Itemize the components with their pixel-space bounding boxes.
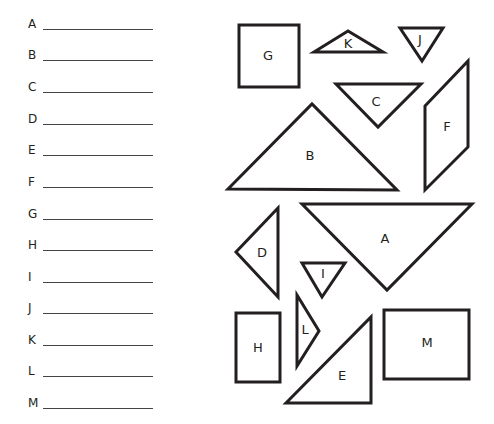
shape-label-k: K (344, 37, 353, 51)
shape-label-e: E (338, 369, 346, 383)
shape-label-f: F (443, 120, 450, 134)
shape-label-d: D (257, 246, 267, 260)
shape-label-j: J (418, 33, 422, 47)
shape-label-a: A (381, 232, 390, 246)
shape-triangle-e (286, 317, 371, 403)
shape-label-b: B (306, 149, 315, 163)
shape-label-g: G (263, 49, 273, 63)
shapes-area: GKJCFBADILHEM (0, 0, 494, 424)
shape-triangle-b (228, 104, 397, 190)
shape-triangle-a (302, 204, 472, 290)
shape-label-i: I (321, 267, 325, 281)
shape-label-h: H (253, 341, 263, 355)
shapes-canvas (0, 0, 494, 424)
shape-label-m: M (421, 336, 432, 350)
shape-label-l: L (301, 323, 308, 337)
shape-label-c: C (371, 95, 380, 109)
